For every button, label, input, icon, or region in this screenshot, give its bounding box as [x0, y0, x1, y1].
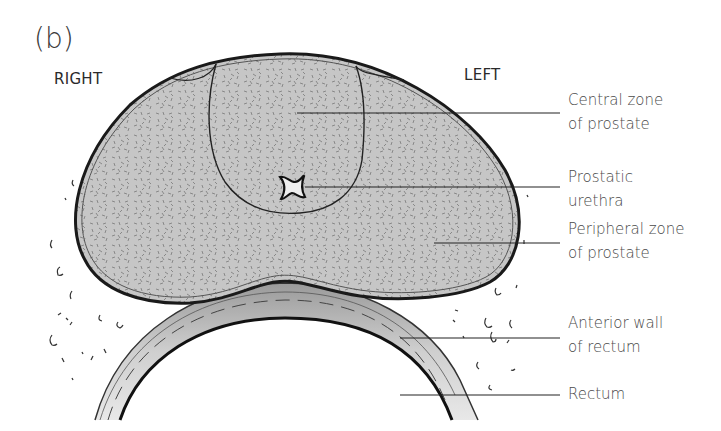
panel-label: (b)	[34, 22, 74, 55]
orientation-left-label: LEFT	[464, 66, 501, 84]
prostate-anatomy-diagram	[0, 0, 721, 431]
prostate-outline	[75, 54, 519, 303]
label-prostatic-urethra: Prostatic urethra	[568, 165, 633, 213]
label-central-zone: Central zone of prostate	[568, 88, 663, 136]
orientation-right-label: RIGHT	[54, 70, 102, 88]
rectum-wall	[95, 283, 478, 420]
label-peripheral-zone: Peripheral zone of prostate	[568, 217, 684, 265]
prostate	[75, 54, 519, 303]
label-anterior-wall-rectum: Anterior wall of rectum	[568, 311, 663, 359]
label-rectum: Rectum	[568, 382, 625, 406]
rectum	[95, 283, 478, 420]
